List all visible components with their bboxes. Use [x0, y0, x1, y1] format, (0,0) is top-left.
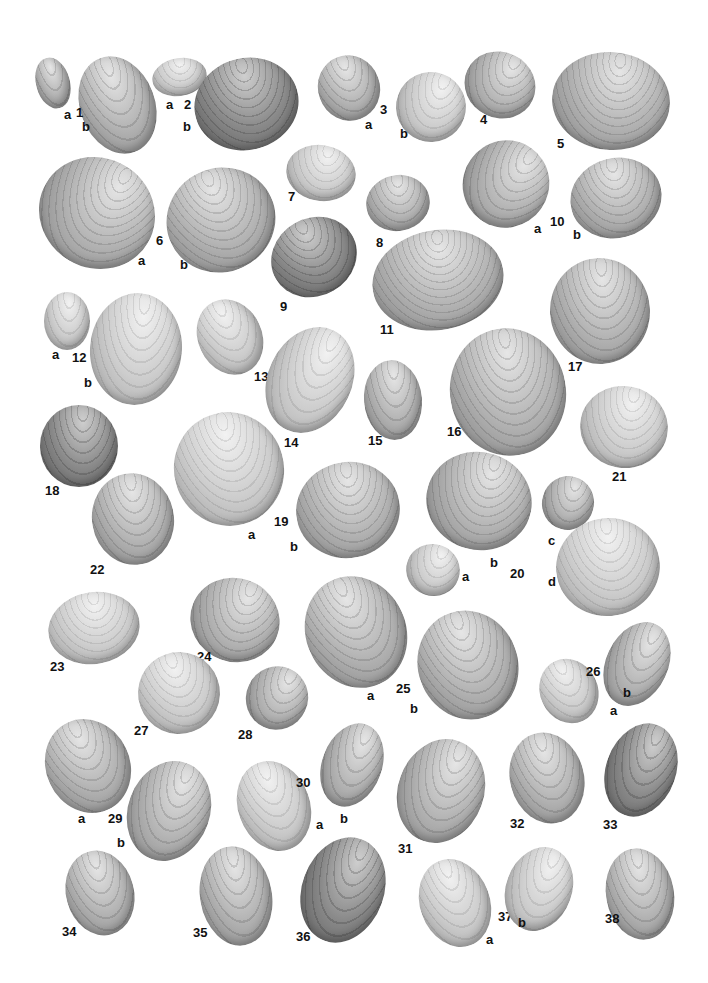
- specimen-label-21: 21: [612, 470, 626, 483]
- specimen-label-11: 11: [380, 323, 394, 336]
- shell-specimen-17: [546, 254, 655, 368]
- specimen-label-37b: b: [518, 916, 526, 929]
- shell-specimen-20a: [399, 536, 468, 603]
- specimen-label-33: 33: [603, 818, 617, 831]
- shell-specimen-10a: [446, 123, 567, 244]
- shell-specimen-30b: [309, 714, 395, 815]
- specimen-label-15: 15: [368, 434, 382, 447]
- specimen-label-6num: 6: [156, 234, 163, 247]
- specimen-label-30b: b: [340, 812, 348, 825]
- shell-specimen-12b: [85, 289, 186, 409]
- specimen-label-1b: b: [82, 120, 90, 133]
- specimen-label-25num: 25: [396, 682, 410, 695]
- specimen-label-14: 14: [284, 436, 298, 449]
- specimen-label-20d: d: [548, 575, 556, 588]
- specimen-label-36: 36: [296, 930, 310, 943]
- shell-specimen-4: [453, 40, 546, 130]
- specimen-label-28: 28: [238, 728, 252, 741]
- shell-specimen-8: [362, 170, 435, 236]
- shell-specimen-6a: [18, 136, 175, 290]
- specimen-label-29b: b: [117, 836, 125, 849]
- shell-specimen-38: [599, 843, 682, 945]
- specimen-label-9: 9: [280, 300, 287, 313]
- specimen-label-25b: b: [410, 702, 418, 715]
- shell-specimen-16: [440, 319, 576, 465]
- specimen-label-35: 35: [193, 926, 207, 939]
- shell-specimen-31: [382, 726, 499, 855]
- specimen-label-12a: a: [52, 348, 59, 361]
- specimen-label-10b: b: [573, 228, 581, 241]
- specimen-label-20c: c: [548, 534, 555, 547]
- shell-specimen-19b: [288, 454, 407, 567]
- specimen-label-12b: b: [84, 376, 92, 389]
- specimen-label-31: 31: [398, 842, 412, 855]
- specimen-label-29a: a: [78, 812, 85, 825]
- specimen-label-3b: b: [400, 127, 408, 140]
- shell-specimen-14: [249, 312, 372, 447]
- specimen-label-7: 7: [288, 190, 295, 203]
- specimen-label-20a: a: [462, 570, 469, 583]
- specimen-label-16: 16: [447, 425, 461, 438]
- specimen-label-26a: a: [610, 704, 617, 717]
- specimen-label-5: 5: [557, 137, 564, 150]
- shell-specimen-1a: [30, 53, 76, 112]
- shell-specimen-15: [361, 358, 426, 443]
- shell-specimen-5: [548, 47, 674, 155]
- specimen-label-1a: a: [64, 108, 71, 121]
- shell-specimen-30a: [224, 750, 323, 861]
- specimen-label-30num: 30: [296, 776, 310, 789]
- specimen-label-26b: b: [623, 686, 631, 699]
- shell-specimen-26b: [590, 611, 683, 717]
- shell-specimen-12a: [44, 292, 90, 350]
- specimen-label-29num: 29: [108, 812, 122, 825]
- specimen-label-30a: a: [316, 818, 323, 831]
- specimen-label-17: 17: [568, 360, 582, 373]
- specimen-label-26num: 26: [586, 665, 600, 678]
- specimen-label-38: 38: [605, 912, 619, 925]
- specimen-label-6b: b: [180, 258, 188, 271]
- specimen-label-8: 8: [376, 236, 383, 249]
- specimen-label-4: 4: [480, 113, 487, 126]
- specimen-label-25a: a: [367, 689, 374, 702]
- specimen-label-23: 23: [50, 660, 64, 673]
- specimen-label-3a: a: [365, 118, 372, 131]
- shell-specimen-3a: [309, 46, 390, 129]
- specimen-label-18: 18: [45, 484, 59, 497]
- shell-specimen-18: [40, 405, 118, 487]
- specimen-label-27: 27: [134, 724, 148, 737]
- specimen-label-2num: 2: [184, 98, 191, 111]
- shell-specimen-25b: [402, 596, 534, 734]
- specimen-label-19num: 19: [274, 515, 288, 528]
- specimen-label-12num: 12: [72, 351, 86, 364]
- specimen-label-20num: 20: [510, 567, 524, 580]
- specimen-label-10a: a: [534, 222, 541, 235]
- specimen-label-20b: b: [490, 556, 498, 569]
- shell-specimen-26a: [529, 649, 609, 733]
- specimen-label-19b: b: [290, 540, 298, 553]
- specimen-label-37a: a: [486, 933, 493, 946]
- fossil-plate: ab1a2ba3b45a6b789a10b11a12b131415161718a…: [0, 0, 708, 983]
- shell-specimen-2b: [184, 46, 309, 162]
- shell-specimen-21: [574, 379, 675, 475]
- specimen-label-22: 22: [90, 563, 104, 576]
- specimen-label-32: 32: [510, 817, 524, 830]
- specimen-label-10num: 10: [550, 215, 564, 228]
- specimen-label-2b: b: [183, 120, 191, 133]
- specimen-label-1num: 1: [76, 106, 83, 119]
- shell-specimen-33: [592, 713, 691, 827]
- specimen-label-3num: 3: [380, 103, 387, 116]
- specimen-label-6a: a: [138, 254, 145, 267]
- shell-specimen-22: [85, 467, 182, 572]
- specimen-label-19a: a: [248, 528, 255, 541]
- specimen-label-2a: a: [166, 98, 173, 111]
- specimen-label-34: 34: [62, 925, 76, 938]
- shell-specimen-37b: [493, 837, 584, 940]
